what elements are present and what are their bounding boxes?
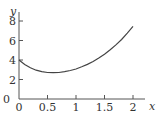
y-tick-label: 4 bbox=[9, 54, 16, 67]
y-tick-label: 2 bbox=[9, 74, 16, 87]
data-curve bbox=[19, 26, 133, 72]
x-axis-label: x bbox=[149, 100, 156, 113]
x-tick-label: 1.5 bbox=[96, 101, 114, 114]
y-tick-label: 0 bbox=[3, 93, 10, 106]
x-tick-label: 2 bbox=[130, 101, 137, 114]
x-tick-label: 0 bbox=[16, 101, 23, 114]
x-tick-label: 1 bbox=[73, 101, 80, 114]
y-axis-label: y bbox=[9, 5, 17, 18]
chart: 02468 00.511.52 y x bbox=[0, 0, 163, 119]
x-ticks: 00.511.52 bbox=[16, 95, 137, 114]
axes bbox=[19, 12, 145, 99]
x-tick-label: 0.5 bbox=[39, 101, 57, 114]
y-tick-label: 6 bbox=[9, 35, 16, 48]
